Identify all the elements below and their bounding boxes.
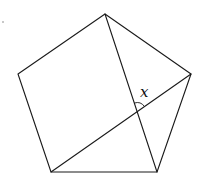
pentagon-outline xyxy=(18,14,191,172)
angle-label-x: x xyxy=(140,83,149,101)
diagonal-bottom-left-to-right xyxy=(51,74,191,172)
stray-mark xyxy=(2,21,4,23)
diagonal-top-to-bottom-right xyxy=(105,14,157,172)
pentagon-diagram: x xyxy=(0,0,201,183)
